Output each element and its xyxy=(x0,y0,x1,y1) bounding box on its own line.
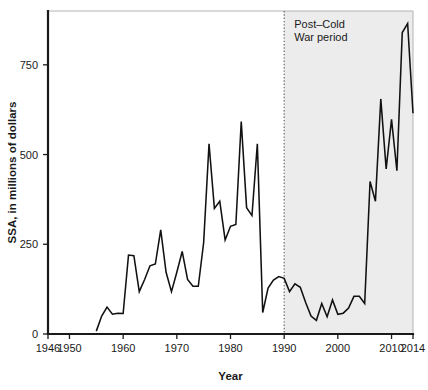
x-tick-label-1970: 1970 xyxy=(165,342,189,354)
post-cold-war-shaded-region xyxy=(284,11,413,334)
x-axis-title: Year xyxy=(218,370,243,382)
post-cold-war-annotation-line2: War period xyxy=(294,31,347,43)
x-tick-label-1980: 1980 xyxy=(218,342,242,354)
x-tick-label-2000: 2000 xyxy=(326,342,350,354)
y-tick-label-0: 0 xyxy=(32,328,38,340)
y-tick-label-250: 250 xyxy=(20,238,38,250)
y-axis-tick-labels: 0250500750 xyxy=(20,59,38,340)
post-cold-war-annotation-line1: Post–Cold xyxy=(294,18,345,30)
x-tick-label-1990: 1990 xyxy=(272,342,296,354)
y-tick-label-750: 750 xyxy=(20,59,38,71)
x-tick-label-2014: 2014 xyxy=(401,342,425,354)
y-axis-title: SSA, in millions of dollars xyxy=(6,102,18,244)
chart-container: 194619501960197019801990200020102014 025… xyxy=(0,0,428,390)
line-chart: 194619501960197019801990200020102014 025… xyxy=(0,0,428,390)
x-tick-label-1960: 1960 xyxy=(111,342,135,354)
x-axis-tick-labels: 194619501960197019801990200020102014 xyxy=(36,342,425,354)
y-tick-label-500: 500 xyxy=(20,149,38,161)
x-tick-label-1950: 1950 xyxy=(57,342,81,354)
